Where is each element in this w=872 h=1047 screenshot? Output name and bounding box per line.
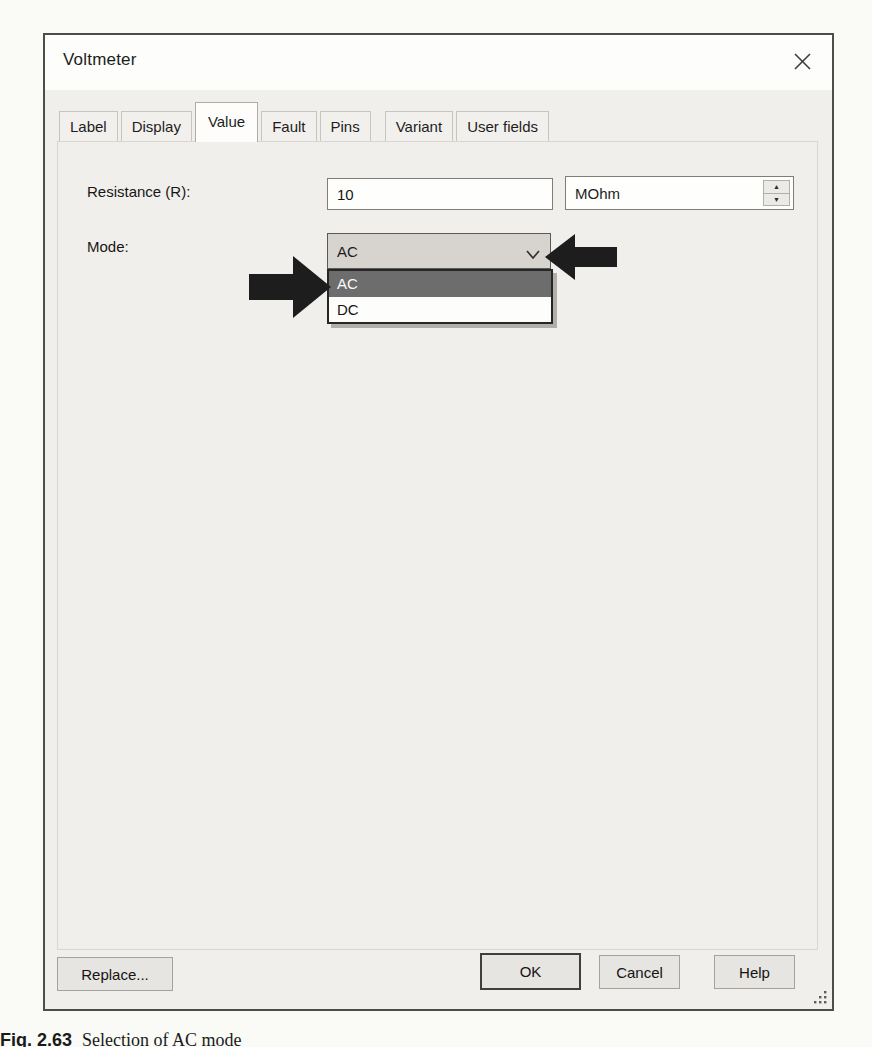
- resize-grip[interactable]: [812, 989, 828, 1005]
- tab-variant[interactable]: Variant: [385, 111, 453, 142]
- mode-combobox[interactable]: AC: [327, 233, 551, 269]
- cancel-button[interactable]: Cancel: [599, 955, 680, 989]
- mode-label: Mode:: [87, 238, 129, 255]
- mode-dropdown-list: AC DC: [327, 269, 553, 324]
- spinner-up-icon: ▲: [773, 183, 780, 190]
- spinner-down-icon: ▼: [773, 196, 780, 203]
- mode-selected-value: AC: [337, 243, 358, 260]
- mode-option-ac[interactable]: AC: [329, 271, 551, 297]
- voltmeter-dialog: Voltmeter Label Display Value Fault Pins…: [43, 33, 834, 1011]
- dialog-title: Voltmeter: [63, 50, 137, 70]
- resistance-input[interactable]: [327, 178, 553, 210]
- spinner-up-button[interactable]: ▲: [764, 181, 789, 194]
- chevron-down-icon: [526, 245, 540, 262]
- tab-fault[interactable]: Fault: [261, 111, 316, 142]
- titlebar: Voltmeter: [45, 35, 832, 90]
- tab-bar: Label Display Value Fault Pins Variant U…: [59, 102, 552, 142]
- ok-button[interactable]: OK: [480, 953, 581, 990]
- annotation-arrow-left-pointing: [545, 234, 617, 284]
- resistance-label: Resistance (R):: [87, 183, 190, 200]
- annotation-arrow-right-pointing: [249, 256, 331, 322]
- unit-spinner: ▲ ▼: [763, 180, 790, 206]
- resistance-unit-field[interactable]: MOhm ▲ ▼: [565, 176, 794, 210]
- mode-option-dc[interactable]: DC: [329, 297, 551, 323]
- help-button[interactable]: Help: [714, 955, 795, 989]
- tab-user-fields[interactable]: User fields: [456, 111, 549, 142]
- figure-caption-number: Fig. 2.63: [0, 1030, 72, 1047]
- close-button[interactable]: [784, 45, 820, 81]
- figure-caption-text: Selection of AC mode: [82, 1030, 241, 1047]
- close-icon: [794, 53, 811, 74]
- resistance-unit-value: MOhm: [575, 185, 620, 202]
- tab-value[interactable]: Value: [195, 102, 258, 142]
- replace-button[interactable]: Replace...: [57, 957, 173, 991]
- figure-caption: Fig. 2.63Selection of AC mode: [0, 1030, 242, 1047]
- tab-label[interactable]: Label: [59, 111, 118, 142]
- spinner-down-button[interactable]: ▼: [764, 194, 789, 206]
- tab-pins[interactable]: Pins: [320, 111, 371, 142]
- tab-display[interactable]: Display: [121, 111, 192, 142]
